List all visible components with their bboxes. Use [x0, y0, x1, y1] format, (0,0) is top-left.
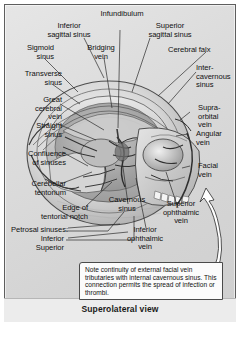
label-intercavernous-sinus: Inter- cavernous sinus [196, 64, 242, 90]
label-superior-sagittal-sinus: Superior sagittal sinus [134, 22, 206, 39]
label-angular-vein: Angular vein [196, 130, 242, 147]
label-straight-sinus: Straight sinus [6, 122, 62, 139]
anatomy-figure: Superolateral view [0, 0, 242, 338]
label-bridging-vein: Bridging vein [72, 44, 130, 61]
label-transverse-sinus: Transverse sinus [0, 70, 62, 87]
label-supraorbital-vein: Supra- orbital vein [198, 104, 242, 130]
label-petrosal-superior: Superior [0, 244, 64, 253]
figure-caption: Superolateral view [4, 304, 236, 314]
label-great-cerebral-vein: Great cerebral vein [6, 96, 62, 122]
label-inferior-ophthalmic-vein: Inferior ophthalmic vein [116, 226, 174, 252]
orbit-cavity [143, 139, 183, 171]
caption-band: Superolateral view [4, 298, 236, 322]
label-infundibulum: Infundibulum [84, 10, 160, 19]
label-cavernous-sinus: Cavernous sinus [98, 196, 156, 213]
label-sigmoid-sinus: Sigmoid sinus [2, 44, 54, 61]
label-superior-ophthalmic-vein: Superior ophthalmic vein [152, 200, 210, 226]
label-inferior-sagittal-sinus: Inferior sagittal sinus [36, 22, 102, 39]
label-facial-vein: Facial vein [198, 162, 242, 179]
label-cerebellar-tentorium: Cerebellar tentorium [2, 180, 66, 197]
note-callout: Note continuity of external facial vein … [79, 262, 223, 300]
label-cerebral-falx: Cerebral falx [168, 46, 242, 55]
label-confluence-of-sinuses: Confluence of sinuses [0, 150, 66, 167]
label-edge-of-tentorial-notch: Edge of tentorial notch [2, 204, 88, 221]
